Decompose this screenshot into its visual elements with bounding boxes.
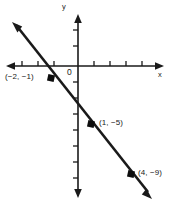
point-label-4-minus9: (4, −9) (138, 169, 162, 177)
x-axis-group (6, 61, 164, 70)
plotted-line (16, 25, 148, 192)
line-lower-right-arrowhead (142, 189, 152, 199)
x-axis-label: x (158, 71, 162, 79)
origin-label: 0 (67, 68, 72, 77)
point-label-minus2-minus1: (−2, −1) (5, 73, 34, 81)
y-axis-negative-arrowhead (74, 189, 82, 198)
coordinate-graph-figure: (−2, −1) (1, −5) (4, −9) y x 0 (0, 0, 170, 204)
point-marker-1-minus5 (87, 120, 95, 128)
point-label-1-minus5: (1, −5) (99, 119, 123, 127)
point-marker-4-minus9 (127, 170, 135, 178)
y-axis-label: y (62, 3, 66, 11)
x-axis-positive-arrowhead (155, 62, 164, 70)
x-axis-negative-arrowhead (6, 62, 15, 70)
point-marker-minus2-minus1 (47, 74, 55, 82)
y-axis-positive-arrowhead (74, 14, 82, 23)
